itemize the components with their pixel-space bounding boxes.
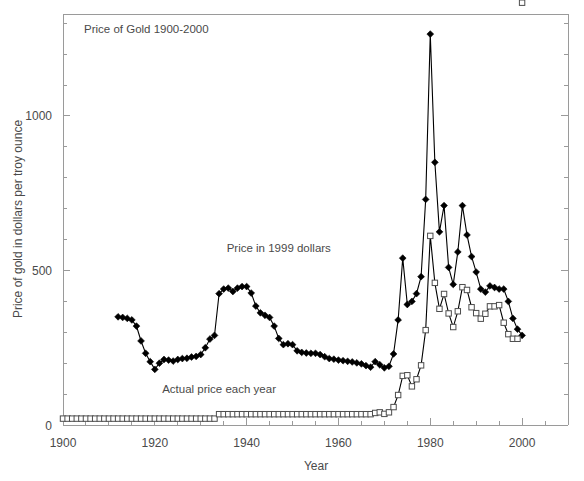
x-tick-label: 1960 bbox=[325, 436, 352, 450]
y-tick-label: 1000 bbox=[25, 109, 52, 123]
data-point-square bbox=[414, 377, 419, 382]
data-point-square bbox=[437, 306, 442, 311]
x-tick-label: 2000 bbox=[509, 436, 536, 450]
data-point-square bbox=[473, 310, 478, 315]
data-point-square bbox=[501, 320, 506, 325]
data-point-square bbox=[409, 384, 414, 389]
data-point-square bbox=[515, 336, 520, 341]
annotation-label-1: Actual price each year bbox=[162, 383, 276, 395]
data-point-square bbox=[386, 410, 391, 415]
data-point-square bbox=[455, 309, 460, 314]
data-point-square bbox=[395, 392, 400, 397]
data-point-square bbox=[418, 363, 423, 368]
data-point-square bbox=[469, 305, 474, 310]
x-tick-label: 1940 bbox=[233, 436, 260, 450]
chart-title: Price of Gold 1900-2000 bbox=[84, 23, 209, 35]
chart-canvas: 05001000 190019201940196019802000 Price … bbox=[0, 0, 584, 481]
data-point-square bbox=[446, 311, 451, 316]
data-point-square bbox=[451, 324, 456, 329]
gold-price-chart-figure: 05001000 190019201940196019802000 Price … bbox=[0, 0, 584, 481]
x-axis-title: Year bbox=[304, 459, 328, 473]
data-point-square bbox=[464, 287, 469, 292]
data-point-square bbox=[496, 302, 501, 307]
x-tick-label: 1900 bbox=[50, 436, 77, 450]
data-point-square bbox=[432, 280, 437, 285]
y-tick-label: 0 bbox=[45, 419, 52, 433]
data-point-square bbox=[441, 291, 446, 296]
x-tick-label: 1980 bbox=[417, 436, 444, 450]
annotation-label-0: Price in 1999 dollars bbox=[227, 242, 331, 254]
data-point-square bbox=[391, 404, 396, 409]
data-point-square bbox=[519, 0, 524, 5]
x-tick-label: 1920 bbox=[141, 436, 168, 450]
chart-background bbox=[0, 0, 584, 481]
data-point-square bbox=[428, 233, 433, 238]
data-point-square bbox=[423, 327, 428, 332]
data-point-square bbox=[405, 373, 410, 378]
y-tick-label: 500 bbox=[32, 264, 52, 278]
data-point-square bbox=[483, 311, 488, 316]
y-axis-title: Price of gold in dollars per troy ounce bbox=[11, 120, 25, 318]
